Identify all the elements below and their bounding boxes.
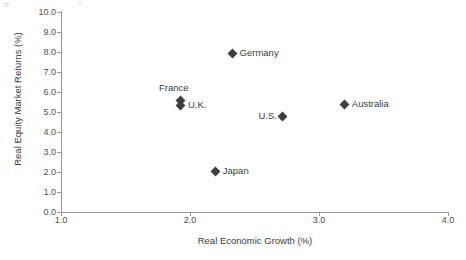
y-axis-title: Real Equity Market Returns (%) xyxy=(13,0,23,199)
y-axis-tick xyxy=(57,72,61,73)
diamond-marker-icon xyxy=(228,48,238,58)
y-axis-tick xyxy=(57,192,61,193)
data-point-label: U.K. xyxy=(188,100,206,110)
scatter-chart: 0.01.02.03.04.05.06.07.08.09.010.0 Germa… xyxy=(0,0,466,260)
y-axis-tick xyxy=(57,32,61,33)
x-axis-line xyxy=(61,212,449,213)
data-point-label: Australia xyxy=(352,99,389,109)
y-tick-label-group: 0.01.02.03.04.05.06.07.08.09.010.0 xyxy=(0,12,56,212)
scan-artifact xyxy=(4,2,9,7)
y-axis-tick xyxy=(57,172,61,173)
data-point-label: France xyxy=(159,83,189,93)
x-axis-tick-label: 3.0 xyxy=(299,216,339,225)
diamond-marker-icon xyxy=(278,111,288,121)
x-axis-tick-label: 4.0 xyxy=(428,216,466,225)
scan-artifact xyxy=(78,1,82,4)
y-axis-tick xyxy=(57,52,61,53)
plot-area: GermanyFranceU.K.U.S.AustraliaJapan xyxy=(61,12,448,212)
data-point-label: Germany xyxy=(240,48,279,58)
y-axis-tick xyxy=(57,132,61,133)
diamond-marker-icon xyxy=(211,166,221,176)
x-axis-tick-label: 1.0 xyxy=(41,216,81,225)
x-axis-title: Real Economic Growth (%) xyxy=(61,236,449,246)
y-axis-tick xyxy=(57,12,61,13)
data-point-label: Japan xyxy=(223,166,249,176)
y-axis-tick xyxy=(57,92,61,93)
x-axis-tick-label: 2.0 xyxy=(170,216,210,225)
y-axis-tick xyxy=(57,152,61,153)
data-point-label: U.S. xyxy=(258,111,276,121)
y-axis-tick xyxy=(57,112,61,113)
diamond-marker-icon xyxy=(340,99,350,109)
